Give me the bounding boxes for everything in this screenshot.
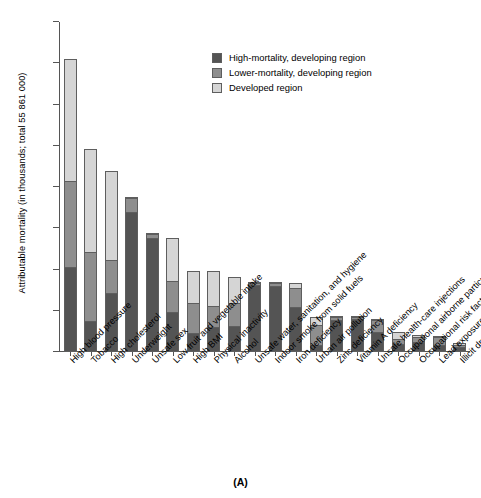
bar-segment-developed	[166, 238, 179, 281]
bar-segment-lower-mortality-developing	[125, 198, 138, 212]
x-tick-label: Alcohol	[232, 358, 239, 365]
y-tick-mark	[53, 186, 59, 187]
legend-label: Developed region	[229, 83, 303, 92]
legend-label: Lower-mortality, developing region	[229, 68, 372, 77]
bar-segment-high-mortality-developing	[64, 267, 77, 352]
x-tick-label: High BMI	[191, 358, 198, 365]
x-tick-label: Vitamin A deficiency	[355, 358, 362, 365]
x-tick-label: Occupational risk factors for injury	[417, 358, 424, 365]
x-tick-label: Zinc deficiency	[335, 358, 342, 365]
bar-segment-developed	[64, 59, 77, 181]
x-tick-label: Indoor smoke from solid fuels	[273, 358, 280, 365]
figure-caption: (A)	[0, 476, 481, 488]
figure-panel-a: Attributable mortality (in thousands; to…	[0, 0, 481, 498]
y-tick-mark	[53, 310, 59, 311]
bar-segment-lower-mortality-developing	[166, 281, 179, 312]
x-tick-label: Occupational airborne particulates	[396, 358, 403, 365]
x-tick-label: Iron deficiency	[294, 358, 301, 365]
legend-item[interactable]: Developed region	[212, 80, 372, 95]
x-tick-label: Illicit drugs	[458, 358, 465, 365]
x-tick-label: Tobacco	[89, 358, 96, 365]
x-tick-label: Low fruit and vegetable intake	[171, 358, 178, 365]
y-tick-mark	[53, 104, 59, 105]
x-tick-label: High cholesterol	[109, 358, 116, 365]
legend-label: High-mortality, developing region	[229, 53, 365, 62]
bar-segment-lower-mortality-developing	[64, 181, 77, 268]
bar-segment-lower-mortality-developing	[84, 252, 97, 322]
bar[interactable]	[84, 149, 97, 352]
x-tick-label: Physical inactivity	[212, 358, 219, 365]
y-tick-mark	[53, 269, 59, 270]
x-tick-label: Unsafe sex	[150, 358, 157, 365]
y-tick-mark	[53, 351, 59, 352]
x-tick-label: Underweight	[130, 358, 137, 365]
y-tick-mark	[53, 145, 59, 146]
x-tick-label: Unsafe health-care injections	[376, 358, 383, 365]
legend-swatch-icon	[212, 68, 222, 78]
y-tick-mark	[53, 227, 59, 228]
bar-segment-lower-mortality-developing	[105, 260, 118, 293]
legend-swatch-icon	[212, 83, 222, 93]
legend-item[interactable]: Lower-mortality, developing region	[212, 65, 372, 80]
chart-legend: High-mortality, developing regionLower-m…	[212, 50, 372, 95]
bar[interactable]	[64, 59, 77, 352]
y-axis-title: Attributable mortality (in thousands; to…	[17, 33, 27, 333]
bar-segment-developed	[84, 149, 97, 251]
bar-segment-developed	[187, 271, 200, 303]
x-tick-label: Lead exposure	[437, 358, 444, 365]
bar-segment-developed	[207, 271, 220, 306]
x-tick-label: Unsafe water, sanitation, and hygiene	[253, 358, 260, 365]
legend-swatch-icon	[212, 53, 222, 63]
y-axis-line	[59, 22, 60, 352]
bar-segment-lower-mortality-developing	[289, 288, 302, 307]
legend-item[interactable]: High-mortality, developing region	[212, 50, 372, 65]
y-tick-mark	[53, 21, 59, 22]
x-tick-label: High blood pressure	[68, 358, 75, 365]
bar-segment-developed	[105, 171, 118, 260]
bar-segment-lower-mortality-developing	[187, 303, 200, 333]
x-tick-label: Urban air pollution	[314, 358, 321, 365]
y-tick-mark	[53, 62, 59, 63]
